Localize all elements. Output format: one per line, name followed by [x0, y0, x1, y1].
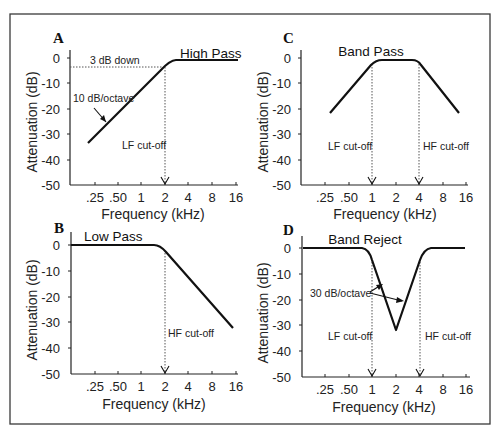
svg-text:-20: -20 — [272, 293, 291, 308]
svg-text:-50: -50 — [41, 367, 60, 382]
svg-text:2: 2 — [392, 190, 399, 205]
svg-text:0: 0 — [53, 238, 60, 253]
panel-letter-a: A — [53, 30, 64, 46]
svg-text:16: 16 — [459, 190, 473, 205]
svg-text:16: 16 — [229, 379, 243, 394]
svg-text:2: 2 — [161, 190, 168, 205]
svg-text:-30: -30 — [41, 315, 60, 330]
x-axis-label: Frequency (kHz) — [102, 396, 205, 412]
y-ticks: 0 -10 -20 -30 -40 -50 — [272, 241, 302, 385]
svg-text:2: 2 — [161, 379, 168, 394]
svg-text:2: 2 — [392, 382, 399, 397]
svg-text:-10: -10 — [272, 76, 291, 91]
hf-cutoff-label: HF cut-off — [168, 327, 214, 339]
svg-text:-40: -40 — [272, 153, 291, 168]
svg-text:-40: -40 — [41, 153, 60, 168]
svg-text:-10: -10 — [41, 76, 60, 91]
svg-text:1: 1 — [137, 379, 144, 394]
arrow-icon — [396, 297, 404, 303]
panel-letter-c: C — [283, 30, 294, 46]
svg-text:-20: -20 — [41, 102, 60, 117]
panel-b-title: Low Pass — [84, 229, 143, 244]
svg-text:4: 4 — [184, 379, 191, 394]
svg-text:.50: .50 — [340, 190, 358, 205]
svg-text:.50: .50 — [109, 379, 127, 394]
svg-text:.50: .50 — [109, 190, 127, 205]
slope-label: 10 dB/octave — [73, 92, 134, 104]
3db-down-label: 3 dB down — [90, 54, 140, 66]
svg-text:-30: -30 — [272, 127, 291, 142]
svg-text:-40: -40 — [272, 344, 291, 359]
band-pass-curve — [330, 60, 459, 113]
x-axis-label: Frequency (kHz) — [332, 399, 435, 415]
svg-text:4: 4 — [415, 190, 422, 205]
panel-d-title: Band Reject — [328, 232, 402, 247]
svg-text:-30: -30 — [272, 318, 291, 333]
y-axis-label: Attenuation (dB) — [24, 71, 40, 172]
svg-text:-40: -40 — [41, 341, 60, 356]
svg-text:-20: -20 — [41, 290, 60, 305]
svg-text:16: 16 — [229, 190, 243, 205]
svg-text:8: 8 — [208, 190, 215, 205]
y-axis-label: Attenuation (dB) — [24, 259, 40, 360]
svg-text:0: 0 — [53, 51, 60, 66]
panel-a: A High Pass 0 -10 -20 -30 -40 -50 — [24, 30, 243, 222]
hf-cutoff-label: HF cut-off — [425, 330, 471, 342]
svg-text:8: 8 — [208, 379, 215, 394]
svg-text:-50: -50 — [41, 178, 60, 193]
svg-text:0: 0 — [284, 51, 291, 66]
lf-cutoff-label: LF cut-off — [328, 330, 372, 342]
svg-text:.25: .25 — [86, 190, 104, 205]
svg-text:1: 1 — [137, 190, 144, 205]
svg-text:-30: -30 — [41, 127, 60, 142]
slope-label: 30 dB/octave — [310, 287, 371, 299]
svg-text:-50: -50 — [272, 178, 291, 193]
y-axis-label: Attenuation (dB) — [255, 71, 271, 172]
svg-text:4: 4 — [415, 382, 422, 397]
panel-d: D Band Reject 0 -10 -20 -30 -40 -50 .25 — [255, 222, 473, 415]
svg-text:8: 8 — [439, 382, 446, 397]
y-axis-label: Attenuation (dB) — [255, 262, 271, 363]
y-ticks: 0 -10 -20 -30 -40 -50 — [272, 51, 301, 193]
svg-text:-20: -20 — [272, 102, 291, 117]
low-pass-curve — [71, 245, 233, 328]
lf-cutoff-label: LF cut-off — [122, 139, 166, 151]
lf-cutoff-label: LF cut-off — [328, 140, 372, 152]
y-ticks: 0 -10 -20 -30 -40 -50 — [41, 238, 71, 382]
svg-text:.25: .25 — [316, 190, 334, 205]
svg-text:8: 8 — [439, 190, 446, 205]
svg-text:-10: -10 — [41, 264, 60, 279]
svg-text:.25: .25 — [316, 382, 334, 397]
panel-c-title: Band Pass — [338, 44, 404, 59]
panel-a-title: High Pass — [180, 46, 242, 61]
hf-cutoff-label: HF cut-off — [423, 140, 469, 152]
filter-figure: A High Pass 0 -10 -20 -30 -40 -50 — [0, 0, 498, 435]
svg-text:16: 16 — [459, 382, 473, 397]
svg-text:.25: .25 — [86, 379, 104, 394]
svg-text:-50: -50 — [272, 370, 291, 385]
panel-c: C Band Pass 0 -10 -20 -30 -40 -50 .25 . — [255, 30, 473, 222]
svg-text:-10: -10 — [272, 267, 291, 282]
svg-text:.50: .50 — [340, 382, 358, 397]
panel-b: B Low Pass 0 -10 -20 -30 -40 -50 .25 .5 — [24, 220, 243, 412]
svg-text:1: 1 — [368, 190, 375, 205]
panel-letter-d: D — [283, 222, 294, 238]
svg-text:0: 0 — [284, 241, 291, 256]
x-axis-label: Frequency (kHz) — [101, 206, 204, 222]
svg-text:1: 1 — [368, 382, 375, 397]
y-ticks: 0 -10 -20 -30 -40 -50 — [41, 51, 70, 193]
x-axis-label: Frequency (kHz) — [333, 206, 436, 222]
panel-letter-b: B — [54, 220, 64, 236]
svg-text:4: 4 — [184, 190, 191, 205]
